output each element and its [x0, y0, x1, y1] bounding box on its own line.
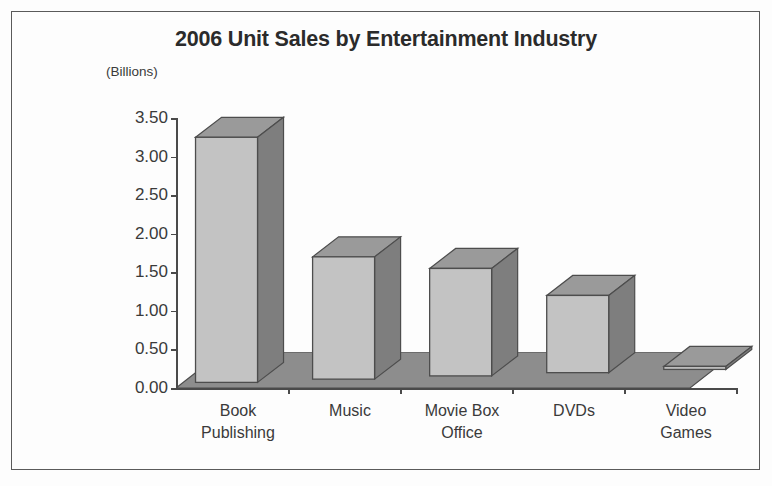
category-label-line2: Office [406, 422, 518, 444]
y-tick-label: 2.50 [102, 185, 168, 205]
y-tick-label: 3.50 [102, 108, 168, 128]
category-label-line1: Book [182, 400, 294, 422]
category-label-line1: Movie Box [406, 400, 518, 422]
y-tick-mark [171, 234, 177, 236]
y-tick-mark [171, 118, 177, 120]
chart-page: 2006 Unit Sales by Entertainment Industr… [0, 0, 772, 486]
y-tick-label: 1.50 [102, 262, 168, 282]
x-tick-mark [288, 388, 290, 394]
floor-plane [176, 352, 736, 390]
category-label-line2: Publishing [182, 422, 294, 444]
x-tick-mark [512, 388, 514, 394]
x-tick-mark [400, 388, 402, 394]
y-tick-mark [171, 157, 177, 159]
category-label-line1: DVDs [518, 400, 630, 422]
x-axis-line [176, 388, 736, 390]
y-tick-mark [171, 195, 177, 197]
category-label-2: Music [294, 400, 406, 422]
y-tick-mark [171, 311, 177, 313]
category-label-1: BookPublishing [182, 400, 294, 443]
y-tick-mark [171, 388, 177, 390]
y-axis-line [176, 118, 178, 389]
category-label-line1: Music [294, 400, 406, 422]
category-label-line1: Video [630, 400, 742, 422]
y-tick-label: 3.00 [102, 147, 168, 167]
y-tick-mark [171, 349, 177, 351]
plot-area: 0.000.501.001.502.002.503.003.50 BookPub… [0, 0, 772, 486]
category-label-3: Movie BoxOffice [406, 400, 518, 443]
x-tick-mark [736, 388, 738, 394]
y-tick-label: 0.50 [102, 339, 168, 359]
y-tick-mark [171, 272, 177, 274]
y-tick-label: 1.00 [102, 301, 168, 321]
x-tick-mark [624, 388, 626, 394]
y-tick-label: 2.00 [102, 224, 168, 244]
y-tick-label: 0.00 [102, 378, 168, 398]
category-label-5: VideoGames [630, 400, 742, 443]
category-label-line2: Games [630, 422, 742, 444]
category-label-4: DVDs [518, 400, 630, 422]
